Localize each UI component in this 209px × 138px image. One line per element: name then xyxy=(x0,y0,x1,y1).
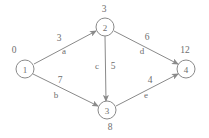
node-label-1: 1 xyxy=(23,65,28,75)
edge-name-e: e xyxy=(144,90,148,100)
edge-1-to-3 xyxy=(33,74,98,106)
edge-weight-2-4: 6 xyxy=(145,32,150,42)
edge-name-c: c xyxy=(95,61,99,71)
edge-weight-3-4: 4 xyxy=(148,75,153,85)
edge-name-a: a xyxy=(62,46,66,56)
node-distance-4: 12 xyxy=(180,45,190,55)
node-label-4: 4 xyxy=(184,65,189,75)
edge-weight-2-3: 5 xyxy=(111,61,116,71)
node-label-3: 3 xyxy=(105,106,110,116)
edge-weight-1-3: 7 xyxy=(58,75,63,85)
node-1[interactable]: 1 xyxy=(16,60,34,78)
graph-canvas: 1234 3a7b5c6d4e03812 xyxy=(0,0,209,138)
node-2[interactable]: 2 xyxy=(96,18,114,36)
node-3[interactable]: 3 xyxy=(98,101,116,119)
edge-name-d: d xyxy=(140,46,145,56)
node-distance-1: 0 xyxy=(12,45,17,55)
graph-diagram: 1234 3a7b5c6d4e03812 xyxy=(0,0,209,138)
node-distance-2: 3 xyxy=(102,4,107,14)
edge-name-b: b xyxy=(54,90,59,100)
node-label-2: 2 xyxy=(103,23,108,33)
node-distance-3: 8 xyxy=(108,122,113,132)
edge-2-to-3 xyxy=(105,36,106,101)
node-4[interactable]: 4 xyxy=(177,60,195,78)
edge-weight-1-2: 3 xyxy=(57,33,62,43)
